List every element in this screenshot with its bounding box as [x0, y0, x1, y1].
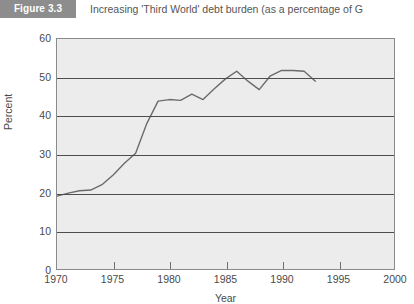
x-tick-label-1990: 1990 [260, 273, 304, 285]
gridline-y-30 [57, 155, 394, 156]
gridline-y-10 [57, 232, 394, 233]
x-axis-title: Year [56, 292, 395, 304]
y-tick-label-60: 60 [5, 33, 51, 43]
gridline-y-20 [57, 194, 394, 195]
plot-area [56, 38, 395, 270]
x-tick-label-2000: 2000 [373, 273, 414, 285]
y-tick-label-30: 30 [5, 149, 51, 159]
x-tick-1985 [227, 262, 228, 269]
x-tick-label-1975: 1975 [91, 273, 135, 285]
x-tick-1980 [170, 262, 171, 269]
figure-header: Figure 3.3 Increasing 'Third World' debt… [0, 0, 414, 20]
gridline-y-50 [57, 78, 394, 79]
line-chart: 0102030405060 19701975198019851990199520… [0, 20, 414, 289]
x-tick-label-1980: 1980 [147, 273, 191, 285]
y-axis-title: Percent [2, 94, 14, 130]
x-tick-label-1985: 1985 [204, 273, 248, 285]
x-axis-tick-labels: 1970197519801985199019952000 [56, 273, 395, 287]
x-tick-1995 [340, 262, 341, 269]
x-tick-1990 [283, 262, 284, 269]
x-tick-1975 [114, 262, 115, 269]
y-axis-tick-labels: 0102030405060 [0, 38, 51, 270]
figure-number-badge: Figure 3.3 [0, 0, 76, 18]
data-series-line [57, 39, 394, 269]
gridline-y-40 [57, 116, 394, 117]
figure-caption: Increasing 'Third World' debt burden (as… [90, 0, 414, 18]
y-tick-label-50: 50 [5, 72, 51, 82]
x-tick-label-1995: 1995 [317, 273, 361, 285]
y-tick-label-10: 10 [5, 226, 51, 236]
y-tick-label-20: 20 [5, 188, 51, 198]
x-tick-label-1970: 1970 [34, 273, 78, 285]
